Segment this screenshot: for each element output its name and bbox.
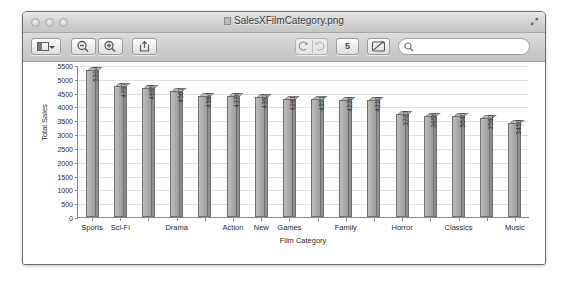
x-tick-mark [205, 218, 206, 221]
pen-markup-icon [368, 39, 389, 54]
x-tick-mark [430, 218, 431, 221]
x-tick-label: Music [505, 223, 525, 232]
bar-value-label: 3640 [459, 113, 466, 128]
bar-value-label: 3592 [487, 114, 494, 129]
y-tick-mark [75, 121, 78, 122]
bar-front-face [480, 118, 490, 217]
y-tick-label: 2000 [57, 159, 73, 166]
bar-value-label: 3723 [402, 110, 409, 125]
x-tick-mark [402, 218, 403, 221]
y-tick-mark [75, 80, 78, 81]
x-tick-label: Drama [165, 223, 188, 232]
share-icon [133, 39, 156, 54]
bar-chart: Total Sales 5500500045004000350030002500… [31, 66, 535, 238]
y-tick-mark [75, 135, 78, 136]
x-tick-label: New [254, 223, 269, 232]
document-icon [224, 17, 231, 25]
bar: 4226 [339, 100, 352, 217]
fullscreen-icon[interactable] [530, 17, 539, 26]
rotate-right-icon[interactable] [311, 39, 327, 54]
y-tick-label: 3500 [57, 118, 73, 125]
bar: 3592 [480, 118, 493, 217]
bar-value-label: 4659 [148, 85, 155, 100]
rotate-segmented-control[interactable] [295, 38, 328, 55]
x-tick-mark [318, 218, 319, 221]
markup-button[interactable] [367, 38, 390, 55]
x-tick-label: Sci-Fi [111, 223, 130, 232]
y-tick-label: 0 [69, 215, 73, 222]
search-input[interactable] [417, 39, 523, 56]
bar: 4352 [255, 97, 268, 217]
bar-side-face [180, 91, 183, 217]
bar: 3418 [508, 123, 521, 217]
bar-value-label: 4271 [318, 95, 325, 110]
bar-value-label: 3656 [430, 112, 437, 127]
bar-side-face [237, 96, 240, 217]
y-tick-label: 3000 [57, 132, 73, 139]
bar-side-face [293, 99, 296, 217]
zoom-in-button[interactable] [98, 38, 123, 55]
bar-value-label: 4281 [289, 95, 296, 110]
window-titlebar: SalesXFilmCategory.png [23, 12, 545, 33]
x-tick-mark [233, 218, 234, 221]
search-field[interactable] [398, 38, 530, 55]
page-count-label: 5 [337, 39, 358, 54]
bar-side-face [406, 114, 409, 217]
bar-front-face [255, 97, 265, 217]
sidebar-toggle-button[interactable] [31, 38, 61, 55]
y-tick-mark [75, 204, 78, 205]
window-toolbar: 5 [23, 33, 545, 62]
chevron-down-icon [49, 46, 55, 49]
bar-value-label: 4567 [177, 87, 184, 102]
share-button[interactable] [132, 38, 157, 55]
gridline [78, 80, 529, 81]
x-tick-mark [374, 218, 375, 221]
y-tick-mark [75, 107, 78, 108]
bar-front-face [227, 96, 237, 217]
x-tick-label: Games [277, 223, 301, 232]
y-tick-label: 5000 [57, 76, 73, 83]
bar-side-face [490, 118, 493, 217]
y-tick-mark [75, 177, 78, 178]
bar-side-face [434, 116, 437, 217]
bar-front-face [396, 114, 406, 217]
sidebar-icon [37, 42, 49, 51]
bar-side-face [377, 100, 380, 217]
bar-front-face [367, 100, 377, 217]
x-tick-mark [92, 218, 93, 221]
page-count-button[interactable]: 5 [336, 38, 359, 55]
bar-side-face [321, 99, 324, 217]
bar: 4567 [170, 91, 183, 217]
preview-window: SalesXFilmCategory.png [22, 11, 546, 265]
zoom-out-button[interactable] [71, 38, 96, 55]
x-tick-mark [148, 218, 149, 221]
y-tick-mark [75, 163, 78, 164]
magnifier-plus-icon [99, 39, 122, 54]
y-tick-label: 2500 [57, 145, 73, 152]
bar-front-face [339, 100, 349, 217]
bar-front-face [170, 91, 180, 217]
bar-front-face [311, 99, 321, 217]
gridline [78, 66, 529, 67]
bar: 3656 [424, 116, 437, 217]
bar-front-face [198, 96, 208, 217]
bar: 4281 [283, 99, 296, 217]
x-tick-mark [177, 218, 178, 221]
bar-front-face [114, 86, 124, 217]
y-tick-label: 1500 [57, 173, 73, 180]
bar-value-label: 5314 [92, 67, 99, 82]
x-tick-mark [515, 218, 516, 221]
bar: 4218 [367, 100, 380, 217]
bar-side-face [265, 97, 268, 217]
rotate-left-icon[interactable] [296, 39, 312, 54]
y-tick-label: 4000 [57, 104, 73, 111]
y-tick-mark [75, 218, 78, 219]
bar: 5314 [86, 70, 99, 217]
x-tick-mark [261, 218, 262, 221]
y-tick-mark [75, 190, 78, 191]
x-tick-label: Classics [445, 223, 473, 232]
x-tick-mark [459, 218, 460, 221]
bar-side-face [96, 70, 99, 217]
window-title: SalesXFilmCategory.png [23, 15, 545, 26]
document-content: Total Sales 5500500045004000350030002500… [23, 62, 545, 264]
